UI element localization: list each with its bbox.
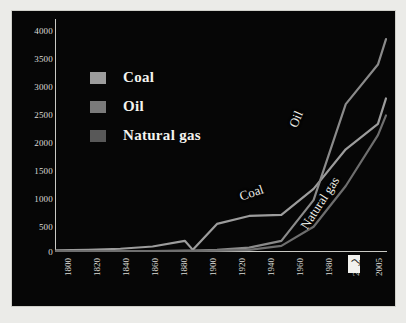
chart-series-lines: [12, 11, 396, 307]
chart-plot-area: 4000 3500 3000 2500 2000 1500 1000 500 0…: [11, 10, 396, 307]
chart-figure: 4000 3500 3000 2500 2000 1500 1000 500 0…: [0, 0, 406, 323]
series-line-oil: [56, 39, 386, 251]
series-line-coal: [56, 98, 386, 250]
